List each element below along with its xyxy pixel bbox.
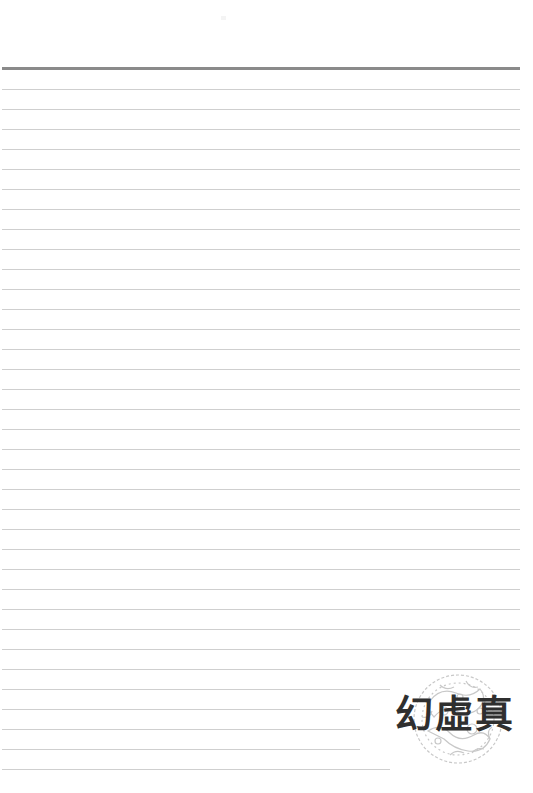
ruled-line	[2, 89, 520, 90]
ruled-line	[2, 729, 360, 730]
ruled-line	[2, 429, 520, 430]
ruled-line	[2, 469, 520, 470]
brand-logo: 幻虛真	[395, 668, 525, 768]
ruled-line	[2, 769, 390, 770]
ruled-line	[2, 689, 390, 690]
ruled-line	[2, 529, 520, 530]
faint-mark	[221, 16, 226, 20]
ruled-line	[2, 309, 520, 310]
ruled-line	[2, 449, 520, 450]
ruled-line	[2, 269, 520, 270]
ruled-line	[2, 369, 520, 370]
ruled-line	[2, 709, 360, 710]
ruled-line	[2, 609, 520, 610]
ruled-line	[2, 509, 520, 510]
ruled-line	[2, 489, 520, 490]
ruled-line	[2, 629, 520, 630]
ruled-line	[2, 229, 520, 230]
ruled-line	[2, 169, 520, 170]
ruled-line	[2, 749, 360, 750]
header-rule	[2, 67, 520, 70]
notebook-page: 幻虛真	[0, 0, 533, 793]
ruled-line	[2, 209, 520, 210]
ruled-line	[2, 389, 520, 390]
ruled-line	[2, 129, 520, 130]
ruled-line	[2, 589, 520, 590]
ruled-line	[2, 409, 520, 410]
logo-text: 幻虛真	[395, 690, 525, 738]
ruled-line	[2, 569, 520, 570]
ruled-line	[2, 109, 520, 110]
ruled-line	[2, 349, 520, 350]
ruled-line	[2, 549, 520, 550]
ruled-line	[2, 149, 520, 150]
ruled-line	[2, 189, 520, 190]
ruled-line	[2, 289, 520, 290]
ruled-line	[2, 329, 520, 330]
ruled-line	[2, 249, 520, 250]
ruled-line	[2, 649, 520, 650]
